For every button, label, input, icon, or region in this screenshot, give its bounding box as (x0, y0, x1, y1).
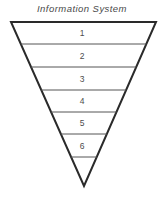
diagram-canvas: Information System 1 2 3 4 5 6 (0, 0, 164, 199)
funnel-level-label-5: 5 (0, 118, 164, 128)
funnel-level-label-6: 6 (0, 141, 164, 151)
funnel-level-label-3: 3 (0, 74, 164, 84)
funnel-level-label-4: 4 (0, 96, 164, 106)
funnel-level-label-2: 2 (0, 51, 164, 61)
funnel-level-label-1: 1 (0, 28, 164, 38)
